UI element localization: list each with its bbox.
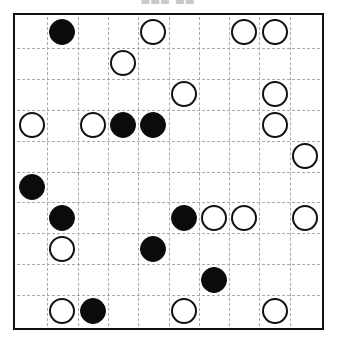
white-stone[interactable] (80, 112, 106, 138)
black-stone[interactable] (140, 236, 166, 262)
board-size-label: 10 (0, 0, 1, 1)
white-stone[interactable] (110, 50, 136, 76)
white-stone[interactable] (171, 298, 197, 324)
black-stone[interactable] (140, 112, 166, 138)
black-stone[interactable] (201, 267, 227, 293)
white-stone[interactable] (201, 205, 227, 231)
board-border[interactable] (13, 13, 324, 330)
black-stone[interactable] (80, 298, 106, 324)
puzzle-page: ███ ██ 10 (0, 0, 337, 343)
white-stone[interactable] (231, 205, 257, 231)
black-stone[interactable] (49, 19, 75, 45)
board-container (13, 13, 324, 330)
black-stone[interactable] (171, 205, 197, 231)
black-stone[interactable] (19, 174, 45, 200)
white-stone[interactable] (171, 81, 197, 107)
white-stone[interactable] (49, 298, 75, 324)
white-stone[interactable] (19, 112, 45, 138)
clipped-top-caption: ███ ██ (0, 0, 337, 4)
black-stone[interactable] (110, 112, 136, 138)
stone-layer[interactable] (17, 17, 320, 326)
black-stone[interactable] (49, 205, 75, 231)
white-stone[interactable] (262, 81, 288, 107)
white-stone[interactable] (292, 205, 318, 231)
white-stone[interactable] (49, 236, 75, 262)
white-stone[interactable] (292, 143, 318, 169)
white-stone[interactable] (140, 19, 166, 45)
white-stone[interactable] (262, 112, 288, 138)
white-stone[interactable] (262, 298, 288, 324)
white-stone[interactable] (231, 19, 257, 45)
white-stone[interactable] (262, 19, 288, 45)
